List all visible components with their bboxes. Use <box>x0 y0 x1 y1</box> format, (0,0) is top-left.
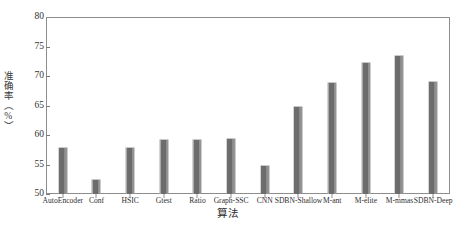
y-axis-tick-mark <box>46 76 50 77</box>
bar-slot <box>315 17 349 194</box>
bar-slot <box>383 17 417 194</box>
x-axis-tick-label: Ratio <box>189 196 205 205</box>
y-axis-tick-label: 50 <box>18 189 44 199</box>
bar-slot <box>282 17 316 194</box>
bar-slot <box>181 17 215 194</box>
bar <box>92 179 101 194</box>
y-axis-tick-label: 75 <box>18 42 44 52</box>
bar <box>294 106 303 195</box>
x-axis-tick-label: Conf <box>89 196 104 205</box>
y-axis-tick-mark <box>46 165 50 166</box>
y-axis-tick-label: 65 <box>18 101 44 111</box>
x-axis-tick-label: M-elite <box>355 196 377 205</box>
x-axis-tick-label: HSIC <box>122 196 139 205</box>
y-axis-tick-mark <box>46 135 50 136</box>
bar-slot <box>416 17 450 194</box>
x-axis-tick-label: AutoEncoder <box>43 196 84 205</box>
x-axis-tick-label: M-mmas <box>386 196 413 205</box>
bar <box>58 147 67 194</box>
bars-container <box>46 17 450 194</box>
y-axis-tick-mark <box>46 106 50 107</box>
y-axis-tick-labels: 50556065707580 <box>0 0 44 232</box>
bar-chart-figure: 准确率（%） 50556065707580 AutoEncoderConfHSI… <box>0 0 455 232</box>
y-axis-tick-label: 60 <box>18 130 44 140</box>
x-axis-title: 算法 <box>0 207 455 220</box>
bar-slot <box>349 17 383 194</box>
bar <box>159 139 168 194</box>
x-axis-tick-label: Gtest <box>156 196 172 205</box>
bar-slot <box>147 17 181 194</box>
y-axis-tick-mark <box>46 47 50 48</box>
x-axis-tick-label: SDBN-Deep <box>414 196 453 205</box>
x-axis-tick-label: Graph-SSC <box>214 196 249 205</box>
bar <box>328 82 337 194</box>
bar-slot <box>46 17 80 194</box>
bar-slot <box>214 17 248 194</box>
x-axis-tick-label: M-ant <box>323 196 342 205</box>
y-axis-tick-label: 80 <box>18 12 44 22</box>
bar <box>227 138 236 194</box>
bar-slot <box>248 17 282 194</box>
bar <box>126 147 135 194</box>
x-axis-tick-label: SDBN-Shallow <box>275 196 323 205</box>
y-axis-tick-label: 55 <box>18 160 44 170</box>
bar <box>260 165 269 195</box>
y-axis-tick-mark <box>46 194 50 195</box>
bar-slot <box>80 17 114 194</box>
y-axis-tick-label: 70 <box>18 71 44 81</box>
x-axis-tick-label: CNN <box>257 196 273 205</box>
bar <box>429 81 438 194</box>
bar <box>395 55 404 194</box>
bar-slot <box>113 17 147 194</box>
bar <box>361 62 370 194</box>
bar <box>193 139 202 194</box>
